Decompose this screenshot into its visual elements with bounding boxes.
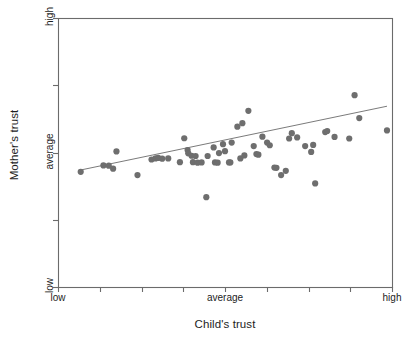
data-point: [205, 153, 211, 159]
data-point-group: [78, 92, 390, 200]
data-point: [220, 141, 226, 147]
x-axis-title-text: Child's trust: [194, 318, 255, 330]
data-point: [251, 143, 257, 149]
data-point: [199, 159, 205, 165]
data-point: [273, 165, 279, 171]
data-point: [308, 149, 314, 155]
data-point: [356, 115, 362, 121]
regression-trendline: [81, 106, 387, 170]
data-point: [310, 142, 316, 148]
plot-canvas: [0, 0, 411, 343]
data-point: [211, 144, 217, 150]
data-point: [289, 130, 295, 136]
data-point: [227, 159, 233, 165]
data-point: [181, 135, 187, 141]
data-point: [278, 172, 284, 178]
data-point: [324, 128, 330, 134]
data-point: [346, 135, 352, 141]
data-point: [229, 139, 235, 145]
data-point: [193, 153, 199, 159]
data-point: [113, 148, 119, 154]
data-point: [177, 159, 183, 165]
data-point: [78, 169, 84, 175]
data-point: [165, 155, 171, 161]
data-point: [110, 166, 116, 172]
data-point: [255, 152, 261, 158]
data-point: [203, 194, 209, 200]
data-point: [216, 150, 222, 156]
data-point: [239, 120, 245, 126]
data-point: [100, 162, 106, 168]
data-point: [331, 134, 337, 140]
data-point: [134, 172, 140, 178]
data-point: [351, 92, 357, 98]
data-point: [302, 143, 308, 149]
data-point: [222, 148, 228, 154]
data-point: [241, 152, 247, 158]
data-point: [294, 134, 300, 140]
data-point: [245, 108, 251, 114]
axis-tick-marks: [53, 19, 393, 293]
data-point: [259, 134, 265, 140]
x-axis-title: Child's trust: [58, 318, 392, 330]
data-point: [267, 142, 273, 148]
data-point: [215, 160, 221, 166]
data-point: [234, 124, 240, 130]
data-point: [384, 127, 390, 133]
data-point: [159, 156, 165, 162]
data-point: [312, 180, 318, 186]
scatter-plot-figure: Mother's trust lowaveragehigh lowaverage…: [0, 0, 411, 343]
data-point: [286, 135, 292, 141]
data-point: [283, 168, 289, 174]
